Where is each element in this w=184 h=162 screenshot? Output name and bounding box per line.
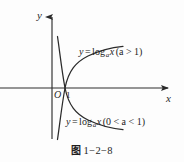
eq-upper-condition: (a > 1) xyxy=(114,46,144,57)
y-axis-label: y xyxy=(37,10,42,21)
logarithm-graph-plot xyxy=(0,0,184,162)
figure-caption-number: 1−2−8 xyxy=(84,145,113,156)
origin-label: O xyxy=(54,90,61,100)
figure-caption: 图1−2−8 xyxy=(0,142,184,157)
x-axis-label: x xyxy=(166,93,171,104)
eq-upper-equals: = xyxy=(83,46,92,57)
eq-lower-log: log xyxy=(79,116,92,127)
figure-caption-cjk: 图 xyxy=(71,145,83,156)
tick-label-one: 1 xyxy=(66,91,71,100)
figure-container: y x O 1 y=logax(a > 1) y=logax(0 < a < 1… xyxy=(0,0,184,162)
eq-upper-log: log xyxy=(92,46,105,57)
eq-lower-condition: (0 < a < 1) xyxy=(101,116,146,127)
equation-label-decreasing: y=logax(0 < a < 1) xyxy=(66,117,147,129)
eq-lower-equals: = xyxy=(70,116,79,127)
equation-label-increasing: y=logax(a > 1) xyxy=(79,47,144,59)
